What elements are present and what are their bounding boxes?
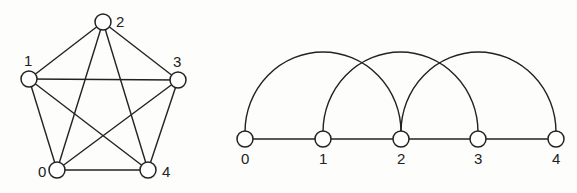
- edge-0-1: [29, 79, 57, 170]
- edge-2-4: [103, 22, 148, 170]
- node-label-3: 3: [173, 53, 181, 70]
- node-3: [470, 131, 486, 147]
- edge-0-3: [57, 80, 178, 170]
- node-4: [548, 131, 564, 147]
- node-label-2: 2: [397, 150, 405, 167]
- node-2: [95, 14, 111, 30]
- node-label-0: 0: [241, 150, 249, 167]
- edge-1-4: [29, 79, 148, 170]
- node-label-2: 2: [116, 13, 124, 30]
- node-label-3: 3: [474, 150, 482, 167]
- node-4: [140, 162, 156, 178]
- node-label-1: 1: [24, 52, 32, 69]
- edge-0-2: [57, 22, 103, 170]
- node-label-4: 4: [162, 163, 170, 180]
- k5-nodes: 01234: [21, 13, 186, 180]
- node-1: [21, 71, 37, 87]
- arc-edge-0-2: [245, 52, 401, 132]
- node-0: [237, 131, 253, 147]
- graph-diagram: 01234 01234: [0, 0, 577, 193]
- linear-edges: [245, 52, 556, 139]
- arc-edge-2-4: [401, 52, 556, 132]
- node-1: [315, 131, 331, 147]
- edge-1-3: [29, 79, 178, 80]
- node-label-0: 0: [38, 163, 46, 180]
- node-label-1: 1: [319, 150, 327, 167]
- edge-1-2: [29, 22, 103, 79]
- node-0: [49, 162, 65, 178]
- node-label-4: 4: [552, 150, 560, 167]
- k5-edges: [29, 22, 178, 170]
- linear-nodes: 01234: [237, 131, 564, 167]
- node-3: [170, 72, 186, 88]
- node-2: [393, 131, 409, 147]
- edge-3-4: [148, 80, 178, 170]
- edge-2-3: [103, 22, 178, 80]
